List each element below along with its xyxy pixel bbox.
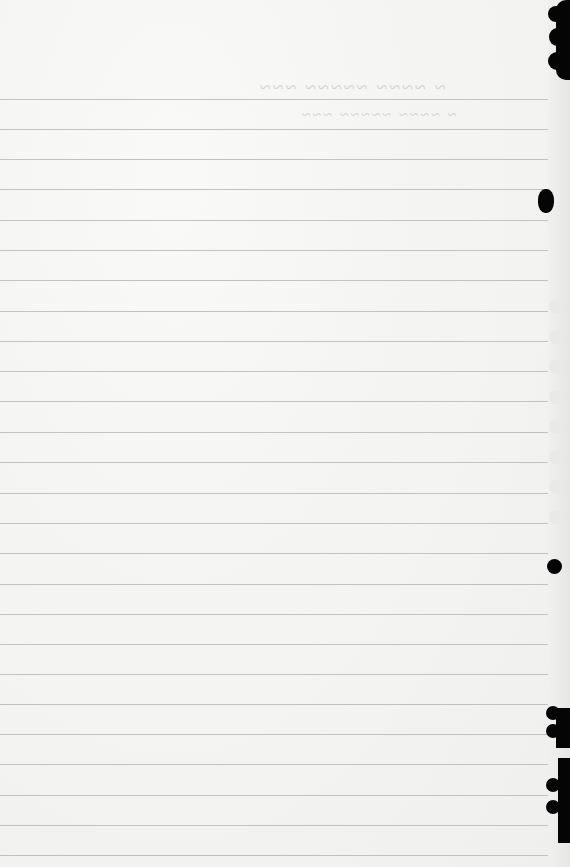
ghost-hole-icon [549, 450, 563, 464]
ghost-hole-icon [549, 420, 563, 434]
ghost-hole-icon [549, 480, 563, 494]
ghost-hole-icon [549, 360, 563, 374]
ghost-hole-icon [549, 330, 563, 344]
rule-line [0, 674, 548, 675]
rule-line [0, 553, 548, 554]
ghost-hole-icon [549, 510, 563, 524]
binding-hole-icon [549, 28, 565, 46]
rule-line [0, 523, 548, 524]
rule-line [0, 99, 548, 100]
rule-line [0, 855, 548, 856]
rule-line [0, 795, 548, 796]
rule-line [0, 462, 548, 463]
rule-line [0, 280, 548, 281]
rule-line [0, 432, 548, 433]
rule-line [0, 129, 548, 130]
rule-line [0, 644, 548, 645]
notebook-page: ~ ~~~~ ~~~~~ ~~~ ~ ~~~~ ~~~~~ ~~~ [0, 0, 570, 867]
rule-line [0, 493, 548, 494]
rule-line [0, 371, 548, 372]
bleed-through-text-1: ~ ~~~~ ~~~~~ ~~~ [258, 76, 446, 99]
rule-line [0, 764, 548, 765]
rule-line [0, 734, 548, 735]
rule-line [0, 584, 548, 585]
binding-hole-icon [547, 559, 562, 574]
binding-tear-mid [556, 708, 570, 748]
rule-line [0, 341, 548, 342]
binding-hole-icon [548, 6, 564, 22]
bleed-through-text-2: ~ ~~~~ ~~~~~ ~~~ [300, 106, 457, 124]
rule-line [0, 614, 548, 615]
rule-line [0, 220, 548, 221]
ghost-hole-icon [549, 390, 563, 404]
binding-hole-icon [548, 52, 566, 70]
rule-line [0, 825, 548, 826]
rule-line [0, 159, 548, 160]
rule-line [0, 704, 548, 705]
rule-line [0, 401, 548, 402]
ghost-hole-icon [549, 300, 563, 314]
rule-line [0, 189, 548, 190]
binding-hole-icon [538, 189, 554, 213]
rule-line [0, 250, 548, 251]
rule-line [0, 311, 548, 312]
binding-tear-bottom [558, 758, 570, 843]
